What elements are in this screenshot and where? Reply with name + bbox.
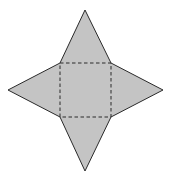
net-outline [8,10,163,171]
pyramid-net-diagram [0,0,169,179]
